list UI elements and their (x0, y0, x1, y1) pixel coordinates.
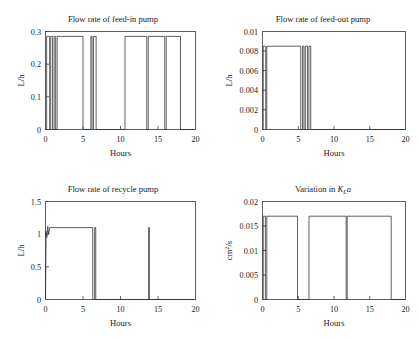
ylabel-denominator: /s (224, 240, 234, 246)
data-series-line (262, 46, 405, 129)
chart-svg-recycle-pump: Flow rate of recycle pump 1.5 1 0.5 0 0 … (0, 170, 209, 339)
chart-panel-recycle-pump: Flow rate of recycle pump 1.5 1 0.5 0 0 … (0, 170, 209, 339)
x-tick-label: 10 (116, 305, 124, 314)
chart-title: Variation in KLa (295, 184, 351, 195)
y-tick-label: 1.5 (31, 197, 41, 206)
x-axis-label: Hours (323, 148, 345, 158)
x-tick-label: 10 (329, 305, 337, 314)
x-tick-label: 0 (43, 135, 47, 144)
x-axis-label: Hours (323, 318, 345, 328)
x-tick-label: 5 (81, 305, 85, 314)
x-axis-ticks: 0 5 10 15 20 (260, 126, 409, 144)
y-tick-label: 0 (37, 295, 41, 304)
x-axis-ticks: 0 5 10 15 20 (43, 126, 199, 144)
title-prefix: Variation in (295, 184, 337, 194)
y-tick-label: 0.004 (239, 86, 257, 95)
x-tick-label: 20 (191, 135, 199, 144)
chart-svg-feed-out-pump: Flow rate of feed-out pump 0.01 0.008 0.… (210, 0, 419, 169)
y-tick-label: 0.005 (239, 271, 257, 280)
x-axis-ticks: 0 5 10 15 20 (260, 296, 409, 314)
chart-panel-feed-out-pump: Flow rate of feed-out pump 0.01 0.008 0.… (210, 0, 419, 169)
x-axis-label: Hours (110, 318, 132, 328)
figure-grid: Flow rate of feed-in pump 0.3 0.2 0.1 0 … (0, 0, 419, 339)
x-axis-label: Hours (110, 148, 132, 158)
y-tick-label: 0.006 (239, 67, 257, 76)
y-axis-label: cm2/s (223, 240, 234, 260)
data-series-line (262, 216, 405, 299)
plot-area-frame (46, 32, 196, 130)
x-tick-label: 10 (116, 135, 124, 144)
y-axis-ticks: 0.02 0.015 0.01 0.005 0 (239, 197, 265, 304)
chart-title: Flow rate of feed-in pump (68, 14, 158, 24)
x-tick-label: 0 (260, 305, 264, 314)
x-tick-label: 20 (401, 135, 409, 144)
x-tick-label: 10 (329, 135, 337, 144)
y-tick-label: 0 (253, 126, 257, 135)
plot-area-frame (46, 201, 196, 299)
chart-title: Flow rate of recycle pump (68, 184, 159, 194)
y-tick-label: 0 (253, 295, 257, 304)
y-tick-label: 0.002 (239, 106, 257, 115)
x-tick-label: 15 (365, 305, 373, 314)
data-series-line (46, 226, 196, 299)
y-tick-label: 0.01 (243, 246, 257, 255)
y-tick-label: 0.01 (243, 28, 257, 37)
y-tick-label: 1 (37, 230, 41, 239)
x-tick-label: 15 (365, 135, 373, 144)
x-tick-label: 5 (81, 135, 85, 144)
chart-svg-kla-variation: Variation in KLa 0.02 0.015 0.01 0.005 0… (210, 170, 419, 339)
x-tick-label: 15 (154, 135, 162, 144)
y-axis-label: L/h (224, 74, 234, 87)
y-tick-label: 0 (37, 126, 41, 135)
x-tick-label: 20 (401, 305, 409, 314)
y-tick-label: 0.02 (243, 197, 257, 206)
chart-svg-feed-in-pump: Flow rate of feed-in pump 0.3 0.2 0.1 0 … (0, 0, 209, 169)
y-axis-ticks: 0.01 0.008 0.006 0.004 0.002 0 (239, 28, 265, 135)
y-tick-label: 0.008 (239, 47, 257, 56)
x-tick-label: 20 (191, 305, 199, 314)
chart-panel-feed-in-pump: Flow rate of feed-in pump 0.3 0.2 0.1 0 … (0, 0, 209, 169)
x-tick-label: 0 (260, 135, 264, 144)
x-tick-label: 15 (154, 305, 162, 314)
title-symbol-a: a (346, 184, 350, 194)
y-tick-label: 0.2 (31, 60, 41, 69)
x-tick-label: 5 (296, 305, 300, 314)
data-series-line (46, 36, 196, 129)
x-axis-ticks: 0 5 10 15 20 (43, 296, 199, 314)
x-tick-label: 0 (43, 305, 47, 314)
ylabel-base: cm (224, 249, 234, 260)
y-axis-label: L/h (16, 74, 26, 87)
y-tick-label: 0.015 (239, 222, 257, 231)
y-tick-label: 0.3 (31, 28, 41, 37)
chart-title: Flow rate of feed-out pump (275, 14, 370, 24)
y-tick-label: 0.5 (31, 262, 41, 271)
y-axis-label: L/h (16, 243, 26, 256)
y-tick-label: 0.1 (31, 93, 41, 102)
x-tick-label: 5 (296, 135, 300, 144)
chart-panel-kla-variation: Variation in KLa 0.02 0.015 0.01 0.005 0… (210, 170, 419, 339)
